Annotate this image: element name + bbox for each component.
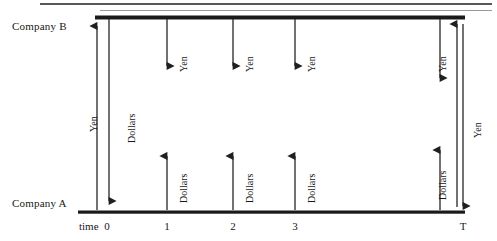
flow-label-t3-yen: Yen xyxy=(306,56,317,72)
flow-label-T-dollars: Dollars xyxy=(437,171,448,200)
tick-label-1: 1 xyxy=(164,220,170,232)
flow-label-t1-dollars: Dollars xyxy=(178,174,189,203)
tick-label-2: 2 xyxy=(230,220,236,232)
flow-label-t0-dollars: Dollars xyxy=(126,114,137,143)
flow-label-t2-yen: Yen xyxy=(244,56,255,72)
swap-cash-flow-diagram: Company B Company A xyxy=(0,0,497,241)
diagram-vector-layer xyxy=(0,0,497,241)
flow-label-t3-dollars: Dollars xyxy=(306,174,317,203)
company-a-rail xyxy=(78,211,465,214)
flow-label-t2-dollars: Dollars xyxy=(244,174,255,203)
tick-label-T: T xyxy=(460,220,467,232)
time-axis-word: time xyxy=(79,220,99,232)
flow-label-T-yen-principal: Yen xyxy=(472,122,483,138)
flow-label-t0-yen: Yen xyxy=(88,116,99,132)
flow-label-T-yen: Yen xyxy=(437,56,448,72)
tick-label-0: 0 xyxy=(104,220,110,232)
company-b-rail xyxy=(95,16,465,20)
flow-label-t1-yen: Yen xyxy=(178,56,189,72)
tick-label-3: 3 xyxy=(292,220,298,232)
